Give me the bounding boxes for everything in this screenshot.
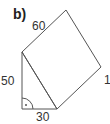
label-right-edge: 1 xyxy=(104,74,110,86)
label-top-edge: 60 xyxy=(32,20,45,32)
right-angle-marker xyxy=(22,98,33,109)
label-left-edge: 50 xyxy=(1,75,14,87)
geometry-diagram xyxy=(0,0,110,124)
right-angle-dot xyxy=(25,104,27,106)
label-bottom-edge: 30 xyxy=(36,111,49,123)
